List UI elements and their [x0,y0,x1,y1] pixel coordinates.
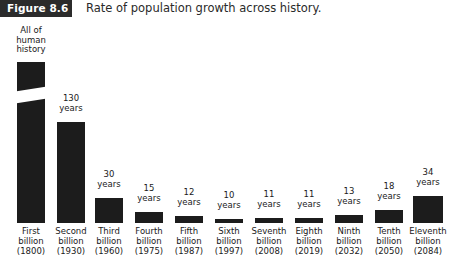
bar-value-label: 11 years [248,190,290,209]
bar-group: 30 yearsThird billion (1960) [88,18,130,264]
bar-category-label: Ninth billion (2032) [328,226,370,256]
bar-category-label: Sixth billion (1997) [208,226,250,256]
bar-rect [255,218,283,223]
bar-rect [175,216,203,223]
bar-category-label: Seventh billion (2008) [248,226,290,256]
bar-value-label: 34 years [406,168,450,187]
bar-category-label: Tenth billion (2050) [368,226,410,256]
axis-break-slash [15,86,47,103]
bar-group: 15 yearsFourth billion (1975) [128,18,170,264]
bar-rect [95,198,123,223]
bar-category-label: Eighth billion (2019) [288,226,330,256]
bar-group: 11 yearsEighth billion (2019) [288,18,330,264]
bar-chart: All of human historyFirst billion (1800)… [0,18,451,264]
bar-value-label: 18 years [368,182,410,201]
bar-value-label: 15 years [128,184,170,203]
bar-rect [295,218,323,223]
bar-group: 12 yearsFifth billion (1987) [168,18,210,264]
bar-rect [413,196,443,223]
bar-category-label: Fifth billion (1987) [168,226,210,256]
bar-group: 11 yearsSeventh billion (2008) [248,18,290,264]
bar-group: 13 yearsNinth billion (2032) [328,18,370,264]
bar-category-label: Eleventh billion (2084) [406,226,450,256]
figure-number-label: Figure 8.6 [7,2,68,14]
bar-rect [215,219,243,223]
bar-rect [335,215,363,223]
bar-rect [375,210,403,223]
bar-value-label: 10 years [208,191,250,210]
figure-header: Figure 8.6 Rate of population growth acr… [0,0,451,18]
bar-rect [135,212,163,223]
bar-category-label: Fourth billion (1975) [128,226,170,256]
bar-value-label: 11 years [288,190,330,209]
figure-caption: Rate of population growth across history… [86,1,321,15]
bar-value-label: 12 years [168,188,210,207]
bar-group: 18 yearsTenth billion (2050) [368,18,410,264]
bar-rect [57,122,85,223]
bar-category-label: Third billion (1960) [88,226,130,256]
figure-number-badge: Figure 8.6 [0,0,72,17]
bar-group: 34 yearsEleventh billion (2084) [406,18,450,264]
bar-value-label: 30 years [88,170,130,189]
bar-rect [17,62,45,223]
bar-group: 10 yearsSixth billion (1997) [208,18,250,264]
bar-value-label: 13 years [328,187,370,206]
